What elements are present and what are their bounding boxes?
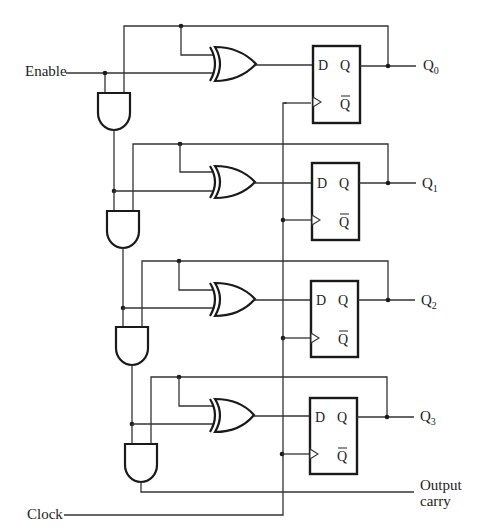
junction-dot — [386, 298, 391, 303]
stage-3: D Q Q Q3 — [125, 375, 436, 492]
xor-gate-0 — [210, 47, 256, 81]
qbar-pin-label: Q — [338, 332, 348, 347]
d-flip-flop-1: D Q Q — [312, 163, 359, 240]
q1-output-label: Q1 — [422, 175, 438, 194]
qbar-pin-label: Q — [339, 215, 349, 230]
xor-gate-1 — [210, 166, 255, 198]
d-flip-flop-2: D Q Q — [311, 281, 358, 357]
enable-label: Enable — [25, 63, 67, 79]
q-pin-label: Q — [340, 58, 350, 73]
d-pin-label: D — [318, 58, 328, 73]
stage-0: D Q Q Q0 — [66, 24, 439, 190]
junction-dot — [386, 64, 391, 69]
d-flip-flop-0: D Q Q — [313, 46, 360, 123]
and-gate-2 — [116, 327, 148, 365]
and-gate-1 — [107, 211, 139, 248]
q0-output-label: Q0 — [423, 57, 439, 76]
junction-dot — [386, 181, 391, 186]
d-flip-flop-3: D Q Q — [310, 398, 357, 474]
qbar-pin-label: Q — [337, 449, 347, 464]
qbar-pin-label: Q — [340, 97, 350, 112]
xor-gate-2 — [210, 283, 255, 316]
q-pin-label: Q — [337, 410, 347, 425]
junction-dot — [103, 71, 108, 76]
and-gate-3 — [125, 444, 157, 482]
q2-output-label: Q2 — [421, 292, 437, 311]
q-pin-label: Q — [339, 176, 349, 191]
q3-output-label: Q3 — [420, 408, 436, 427]
output-carry-label-line1: Output — [420, 477, 463, 493]
output-carry-wire — [141, 482, 414, 492]
q-pin-label: Q — [338, 293, 348, 308]
d-pin-label: D — [316, 293, 326, 308]
d-pin-label: D — [315, 410, 325, 425]
and-gate-0 — [98, 93, 130, 130]
clock-label: Clock — [27, 506, 63, 522]
output-carry-label-line2: carry — [420, 493, 451, 509]
d-pin-label: D — [317, 176, 327, 191]
xor-gate-3 — [210, 399, 254, 432]
junction-dot — [385, 415, 390, 420]
counter-circuit-diagram: Enable Clock D Q Q — [0, 0, 482, 532]
stage-2: D Q Q Q2 — [116, 259, 437, 424]
